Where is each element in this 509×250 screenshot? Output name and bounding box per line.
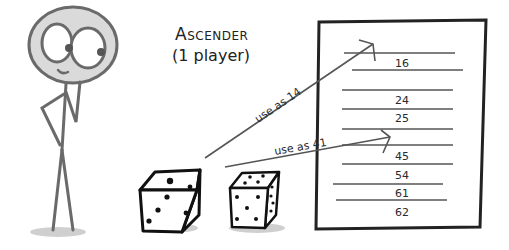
figure-eye-right	[71, 28, 105, 68]
title-text: Ascender	[175, 24, 248, 44]
die-1	[140, 170, 200, 233]
entry-6: 45	[395, 150, 409, 163]
figure-leg-right	[62, 150, 73, 230]
figure-pupil-right	[97, 48, 105, 56]
figure-leg-left	[53, 150, 62, 230]
figure-eye-left	[42, 24, 72, 62]
die-2	[229, 172, 285, 233]
figure-pupil-left	[65, 44, 73, 52]
entry-7: 54	[395, 169, 409, 182]
arrow-label-14: use as 14	[252, 85, 303, 125]
figure-shadow	[30, 227, 86, 237]
entry-9: 62	[395, 206, 409, 219]
entry-4: 25	[395, 112, 409, 125]
illustration-canvas: 16 24 25 45 54 61 62 use as 14 use as 41	[0, 0, 509, 250]
entry-8: 61	[395, 187, 409, 200]
figure-arm-chin	[66, 82, 80, 122]
figure-arm-hip	[42, 94, 64, 145]
stick-figure	[29, 7, 117, 237]
entry-3: 24	[395, 94, 409, 107]
entry-1: 16	[395, 57, 409, 70]
game-subtitle: (1 player)	[172, 46, 250, 65]
game-title: Ascender	[175, 24, 248, 44]
